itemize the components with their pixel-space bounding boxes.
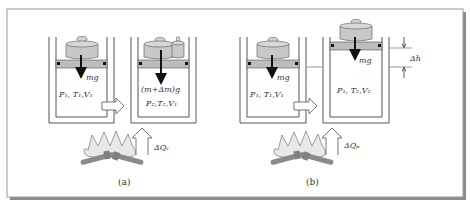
state-label: P₂,T₂,V₁ xyxy=(145,99,177,108)
stop-icon xyxy=(295,62,298,65)
heat-label: ΔQᵥ xyxy=(153,143,169,152)
stop-icon xyxy=(331,44,334,47)
force-label: mg xyxy=(359,56,372,65)
frame-border xyxy=(7,9,463,197)
stop-icon xyxy=(185,62,188,65)
force-label: mg xyxy=(86,73,99,82)
force-label: (m+Δm)g xyxy=(141,85,180,94)
figure-frame: mg P₁, T₁,V₁ (m+Δm)g P₂,T₂,V₁ xyxy=(0,0,470,205)
state-label: P₁, T₂,V₂ xyxy=(336,86,371,95)
height-change-label: Δh xyxy=(409,54,421,63)
stop-icon xyxy=(139,62,142,65)
piston xyxy=(138,60,189,68)
caption-b: (b) xyxy=(306,177,319,187)
heat-label: ΔQₚ xyxy=(343,141,360,150)
force-label: mg xyxy=(277,73,290,82)
state-label: P₁, T₁,V₁ xyxy=(58,90,93,99)
stop-icon xyxy=(378,44,381,47)
stop-icon xyxy=(248,62,251,65)
caption-a: (a) xyxy=(118,177,130,187)
stop-icon xyxy=(103,62,106,65)
stop-icon xyxy=(57,62,60,65)
state-label: P₁, T₁,V₁ xyxy=(249,90,284,99)
